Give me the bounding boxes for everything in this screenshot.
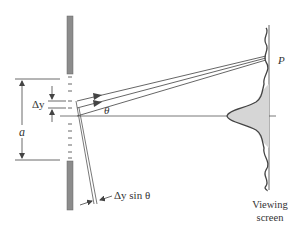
path-difference-label: Δy sin θ bbox=[114, 189, 150, 201]
angle-label: θ bbox=[104, 104, 110, 116]
slit-width-dimension bbox=[15, 79, 60, 160]
slit-dashes bbox=[68, 77, 72, 158]
diffraction-diagram: a Δy θ Δy sin θ P Viewing screen bbox=[0, 0, 302, 233]
screen-label-line2: screen bbox=[257, 212, 285, 223]
point-p-label: P bbox=[277, 54, 285, 66]
barrier-bottom bbox=[67, 161, 73, 210]
delta-y-label: Δy bbox=[32, 98, 45, 110]
slit-width-label: a bbox=[19, 125, 25, 139]
intensity-fill bbox=[227, 84, 269, 148]
barrier-top bbox=[67, 16, 73, 74]
ray-arrowheads bbox=[93, 93, 102, 107]
perpendicular-lines bbox=[76, 101, 97, 204]
screen-label-line1: Viewing bbox=[252, 199, 288, 210]
delta-y-dimension bbox=[48, 86, 66, 122]
